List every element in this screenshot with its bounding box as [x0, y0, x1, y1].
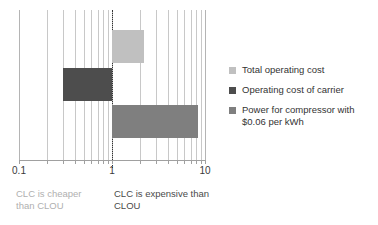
x-tick-mark	[84, 160, 85, 164]
bar-series-2	[63, 68, 112, 101]
legend-item-power-for-compressor: Power for compressor with $0.06 per kWh	[229, 104, 377, 128]
x-tick-mark	[191, 160, 192, 164]
x-tick-mark	[47, 160, 48, 164]
x-tick-mark	[177, 160, 178, 164]
x-tick-mark	[98, 160, 99, 164]
x-tick-label: 0.1	[12, 165, 26, 176]
legend-item-total-operating-cost: Total operating cost	[229, 64, 377, 76]
legend-item-label: Power for compressor with $0.06 per kWh	[242, 104, 377, 128]
x-tick-mark	[19, 160, 20, 164]
x-tick-mark	[112, 160, 113, 164]
x-tick-mark	[184, 160, 185, 164]
gridline	[201, 10, 202, 160]
gridline	[19, 10, 20, 160]
legend-item-operating-cost-of-carrier: Operating cost of carrier	[229, 84, 377, 96]
x-tick-label: 10	[199, 165, 210, 176]
x-tick-mark	[156, 160, 157, 164]
x-tick-mark	[201, 160, 202, 164]
x-tick-mark	[103, 160, 104, 164]
x-tick-mark	[108, 160, 109, 164]
legend-swatch-icon	[229, 87, 236, 94]
caption-clc-cheaper: CLC is cheaper than CLOU	[16, 188, 81, 212]
legend-item-label: Total operating cost	[242, 64, 324, 76]
chart-figure: 0.1110 Total operating cost Operating co…	[0, 0, 378, 225]
x-tick-mark	[63, 160, 64, 164]
x-tick-mark	[205, 160, 206, 164]
x-tick-mark	[75, 160, 76, 164]
x-tick-mark	[91, 160, 92, 164]
caption-clc-expensive: CLC is expensive than CLOU	[114, 188, 209, 212]
gridline	[47, 10, 48, 160]
x-tick-label: 1	[109, 165, 115, 176]
legend-swatch-icon	[229, 107, 236, 114]
chart-legend: Total operating cost Operating cost of c…	[229, 64, 377, 136]
gridline	[205, 10, 206, 160]
x-tick-mark	[140, 160, 141, 164]
x-tick-mark	[196, 160, 197, 164]
legend-swatch-icon	[229, 67, 236, 74]
x-tick-mark	[168, 160, 169, 164]
bar-series-3	[112, 105, 198, 138]
legend-item-label: Operating cost of carrier	[242, 84, 344, 96]
bar-series-1	[112, 30, 144, 63]
